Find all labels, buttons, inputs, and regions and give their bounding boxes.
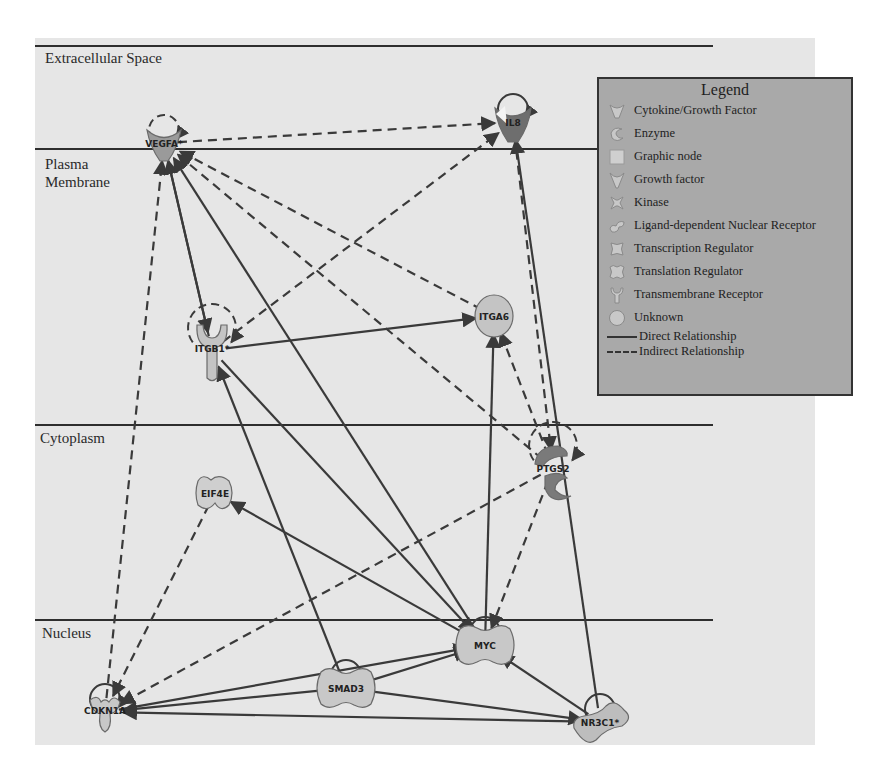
unknown-icon — [607, 308, 627, 328]
node-label: CDKN1A — [84, 706, 126, 716]
edge-nr3c1-cdkn1a — [123, 712, 586, 721]
edge-itgb1-myc — [222, 360, 473, 632]
edge-il8-ptgs2 — [515, 136, 551, 450]
legend-direct-relationship: Direct Relationship — [599, 329, 851, 344]
compartment-label-nucleus: Nucleus — [42, 624, 91, 642]
node-label: NR3C1* — [581, 718, 620, 728]
edge-myc-vegfa — [174, 158, 478, 633]
graphic-node-icon — [607, 147, 627, 167]
compartment-label-extracellular: Extracellular Space — [45, 49, 162, 67]
legend-item-kinase: Kinase — [599, 191, 851, 214]
node-smad3[interactable]: SMAD3 — [317, 669, 375, 708]
node-label: ITGB1* — [195, 344, 230, 354]
node-label: MYC — [474, 641, 496, 651]
node-eif4e[interactable]: EIF4E — [196, 477, 232, 509]
edge-vegfa-il8 — [178, 123, 495, 142]
node-myc[interactable]: MYC — [456, 626, 514, 665]
edge-itgb1-itga6 — [226, 318, 476, 348]
legend-item-unknown: Unknown — [599, 306, 851, 329]
edge-ptgs2-myc — [491, 481, 548, 628]
edge-ptgs2-itga6 — [501, 333, 548, 455]
node-label: ITGA6 — [479, 312, 509, 322]
edge-eif4e-cdkn1a — [113, 506, 209, 696]
legend-item-cytokine: Cytokine/Growth Factor — [599, 99, 851, 122]
node-itga6[interactable]: ITGA6 — [475, 295, 513, 337]
node-label: IL8 — [505, 118, 520, 128]
dashed-line-icon — [607, 351, 637, 353]
edge-nr3c1-myc — [500, 655, 588, 714]
edge-myc-itga6 — [485, 334, 493, 631]
legend-item-graphic-node: Graphic node — [599, 145, 851, 168]
node-label: SMAD3 — [328, 684, 364, 694]
edge-smad3-nr3c1 — [360, 690, 582, 720]
edge-itgb1-vegfa — [168, 161, 209, 337]
node-vegfa[interactable]: VEGFA* — [145, 130, 183, 161]
edges — [106, 123, 598, 722]
legend-item-transmembrane-receptor: Transmembrane Receptor — [599, 283, 851, 306]
edge-itgb1-il8 — [223, 133, 498, 342]
legend-title: Legend — [599, 81, 851, 99]
growth-factor-icon — [607, 170, 627, 190]
self-loops — [90, 94, 615, 718]
node-il8[interactable]: IL8 — [495, 106, 531, 142]
legend-item-enzyme: Enzyme — [599, 122, 851, 145]
legend-item-nuclear-receptor: Ligand-dependent Nuclear Receptor — [599, 214, 851, 237]
edge-cdkn1a-vegfa — [106, 161, 162, 698]
edge-smad3-itgb1 — [219, 367, 341, 675]
cytokine-icon — [607, 101, 627, 121]
transcription-regulator-icon — [607, 239, 627, 259]
legend-item-transcription-regulator: Transcription Regulator — [599, 237, 851, 260]
transmembrane-receptor-icon — [607, 285, 627, 305]
solid-line-icon — [607, 336, 637, 338]
node-label: VEGFA* — [145, 139, 183, 149]
edge-smad3-myc — [359, 650, 467, 684]
compartment-label-cytoplasm: Cytoplasm — [40, 429, 105, 447]
kinase-icon — [607, 193, 627, 213]
node-label: EIF4E — [201, 489, 229, 499]
legend-indirect-relationship: Indirect Relationship — [599, 344, 851, 359]
node-itgb1[interactable]: ITGB1* — [195, 325, 230, 381]
compartment-label-plasma-membrane: Plasma Membrane — [45, 155, 125, 191]
node-cdkn1a[interactable]: CDKN1A — [84, 697, 126, 732]
node-label: PTGS2 — [537, 464, 570, 474]
edge-cdkn1a-myc — [119, 648, 467, 709]
legend-item-translation-regulator: Translation Regulator — [599, 260, 851, 283]
edge-smad3-cdkn1a — [123, 689, 332, 710]
legend-item-growth-factor: Growth factor — [599, 168, 851, 191]
legend: Legend Cytokine/Growth Factor Enzyme Gra… — [597, 77, 853, 396]
edge-itga6-vegfa — [180, 151, 482, 309]
translation-regulator-icon — [607, 262, 627, 282]
enzyme-icon — [607, 124, 627, 144]
nuclear-receptor-icon — [607, 216, 627, 236]
